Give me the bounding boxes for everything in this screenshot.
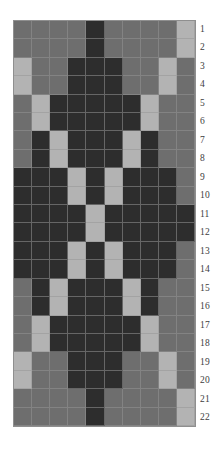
heatmap-cell-r15-c2 bbox=[32, 279, 50, 297]
heatmap-cell-r19-c2 bbox=[32, 352, 50, 370]
heatmap-cell-r14-c9 bbox=[159, 260, 177, 278]
heatmap-cell-r1-c6 bbox=[105, 21, 123, 39]
row-label-21: 21 bbox=[199, 390, 221, 409]
heatmap-cell-r22-c4 bbox=[68, 408, 86, 426]
heatmap-cell-r9-c6 bbox=[105, 168, 123, 186]
heatmap-cell-r10-c6 bbox=[105, 187, 123, 205]
heatmap-cell-r11-c10 bbox=[177, 205, 195, 223]
heatmap-cell-r11-c5 bbox=[86, 205, 104, 223]
heatmap-cell-r16-c10 bbox=[177, 297, 195, 315]
heatmap-cell-r12-c4 bbox=[68, 223, 86, 241]
row-label-2: 2 bbox=[199, 39, 221, 58]
heatmap-cell-r20-c10 bbox=[177, 371, 195, 389]
heatmap-cell-r6-c8 bbox=[141, 113, 159, 131]
heatmap-cell-r6-c4 bbox=[68, 113, 86, 131]
heatmap-cell-r10-c7 bbox=[123, 187, 141, 205]
figure-page: 12345678910111213141516171819202122 bbox=[0, 0, 221, 452]
row-label-17: 17 bbox=[199, 316, 221, 335]
heatmap-cell-r20-c2 bbox=[32, 371, 50, 389]
heatmap-cell-r12-c1 bbox=[14, 223, 32, 241]
heatmap-cell-r13-c1 bbox=[14, 242, 32, 260]
heatmap-cell-r9-c10 bbox=[177, 168, 195, 186]
heatmap-cell-r17-c1 bbox=[14, 316, 32, 334]
heatmap-cell-r13-c9 bbox=[159, 242, 177, 260]
heatmap-cell-r18-c7 bbox=[123, 334, 141, 352]
row-label-9: 9 bbox=[199, 168, 221, 187]
row-label-1: 1 bbox=[199, 20, 221, 39]
heatmap-cell-r4-c2 bbox=[32, 76, 50, 94]
heatmap-cell-r15-c5 bbox=[86, 279, 104, 297]
heatmap-cell-r21-c1 bbox=[14, 389, 32, 407]
heatmap-cell-r9-c1 bbox=[14, 168, 32, 186]
heatmap-cell-r3-c2 bbox=[32, 58, 50, 76]
heatmap-cell-r21-c4 bbox=[68, 389, 86, 407]
heatmap-cell-r5-c1 bbox=[14, 95, 32, 113]
heatmap-cell-r3-c10 bbox=[177, 58, 195, 76]
heatmap-cell-r16-c1 bbox=[14, 297, 32, 315]
heatmap-cell-r1-c7 bbox=[123, 21, 141, 39]
heatmap-cell-r4-c10 bbox=[177, 76, 195, 94]
heatmap-cell-r5-c7 bbox=[123, 95, 141, 113]
heatmap-cell-r1-c1 bbox=[14, 21, 32, 39]
heatmap-cell-r21-c2 bbox=[32, 389, 50, 407]
heatmap-cell-r18-c2 bbox=[32, 334, 50, 352]
heatmap-cell-r20-c4 bbox=[68, 371, 86, 389]
heatmap-cell-r11-c9 bbox=[159, 205, 177, 223]
heatmap-cell-r3-c6 bbox=[105, 58, 123, 76]
heatmap-cell-r2-c5 bbox=[86, 39, 104, 57]
heatmap-cell-r20-c5 bbox=[86, 371, 104, 389]
heatmap-cell-r4-c6 bbox=[105, 76, 123, 94]
heatmap-cell-r18-c3 bbox=[50, 334, 68, 352]
heatmap-cell-r6-c6 bbox=[105, 113, 123, 131]
heatmap-cell-r10-c2 bbox=[32, 187, 50, 205]
heatmap-cell-r22-c9 bbox=[159, 408, 177, 426]
heatmap-cell-r14-c5 bbox=[86, 260, 104, 278]
row-label-5: 5 bbox=[199, 94, 221, 113]
heatmap-cell-r1-c3 bbox=[50, 21, 68, 39]
heatmap-cell-r18-c6 bbox=[105, 334, 123, 352]
heatmap-cell-r20-c6 bbox=[105, 371, 123, 389]
heatmap-cell-r10-c3 bbox=[50, 187, 68, 205]
heatmap-cell-r22-c6 bbox=[105, 408, 123, 426]
heatmap-cell-r7-c7 bbox=[123, 131, 141, 149]
heatmap-cell-r21-c6 bbox=[105, 389, 123, 407]
heatmap-cell-r3-c4 bbox=[68, 58, 86, 76]
heatmap-cell-r6-c5 bbox=[86, 113, 104, 131]
heatmap-cell-r22-c8 bbox=[141, 408, 159, 426]
heatmap-cell-r6-c9 bbox=[159, 113, 177, 131]
heatmap-cell-r1-c9 bbox=[159, 21, 177, 39]
heatmap-cell-r4-c3 bbox=[50, 76, 68, 94]
heatmap-cell-r14-c2 bbox=[32, 260, 50, 278]
heatmap-cell-r2-c10 bbox=[177, 39, 195, 57]
row-label-11: 11 bbox=[199, 205, 221, 224]
heatmap-cell-r12-c9 bbox=[159, 223, 177, 241]
row-label-19: 19 bbox=[199, 353, 221, 372]
heatmap-cell-r2-c1 bbox=[14, 39, 32, 57]
heatmap-cell-r17-c3 bbox=[50, 316, 68, 334]
heatmap-cell-r21-c8 bbox=[141, 389, 159, 407]
heatmap-cell-r7-c9 bbox=[159, 131, 177, 149]
heatmap-cell-r2-c8 bbox=[141, 39, 159, 57]
heatmap-cell-r5-c9 bbox=[159, 95, 177, 113]
heatmap-cell-r8-c1 bbox=[14, 150, 32, 168]
heatmap-cell-r14-c3 bbox=[50, 260, 68, 278]
heatmap-cell-r20-c8 bbox=[141, 371, 159, 389]
heatmap-cell-r20-c3 bbox=[50, 371, 68, 389]
row-label-18: 18 bbox=[199, 335, 221, 354]
heatmap-cell-r14-c1 bbox=[14, 260, 32, 278]
heatmap-cell-r9-c5 bbox=[86, 168, 104, 186]
heatmap-cell-r15-c4 bbox=[68, 279, 86, 297]
heatmap-cell-r13-c4 bbox=[68, 242, 86, 260]
heatmap-cell-r2-c9 bbox=[159, 39, 177, 57]
heatmap-cell-r14-c10 bbox=[177, 260, 195, 278]
heatmap-grid bbox=[13, 20, 196, 427]
heatmap-cell-r19-c7 bbox=[123, 352, 141, 370]
heatmap-cell-r12-c8 bbox=[141, 223, 159, 241]
row-label-7: 7 bbox=[199, 131, 221, 150]
heatmap-cell-r7-c3 bbox=[50, 131, 68, 149]
heatmap-cell-r22-c2 bbox=[32, 408, 50, 426]
heatmap-cell-r16-c6 bbox=[105, 297, 123, 315]
heatmap-cell-r3-c1 bbox=[14, 58, 32, 76]
heatmap-cell-r16-c8 bbox=[141, 297, 159, 315]
heatmap-cell-r9-c9 bbox=[159, 168, 177, 186]
